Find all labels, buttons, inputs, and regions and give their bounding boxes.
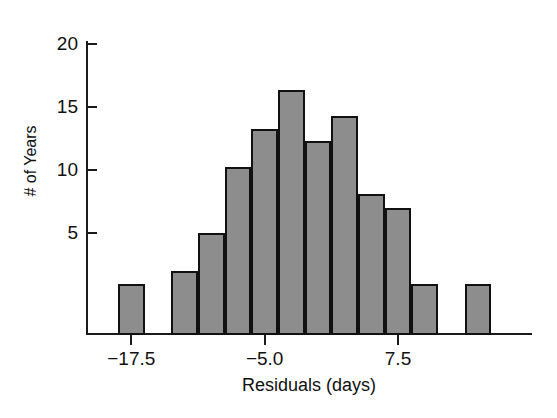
y-tick-label-5: 5 <box>0 222 78 244</box>
y-tick-10 <box>88 169 97 171</box>
x-tick-2 <box>397 335 399 345</box>
histogram-bar <box>171 271 198 335</box>
y-axis-title: # of Years <box>22 101 40 221</box>
histogram-figure: 5101520 −17.5−5.07.5 # of Years Residual… <box>0 0 557 418</box>
y-tick-label-20: 20 <box>0 33 78 55</box>
histogram-bar <box>411 284 438 335</box>
x-tick-1 <box>264 335 266 345</box>
histogram-bar <box>198 233 225 335</box>
histogram-bar <box>225 167 252 335</box>
histogram-bar <box>251 129 278 335</box>
x-axis-title: Residuals (days) <box>86 375 532 396</box>
histogram-bar <box>305 141 332 335</box>
x-tick-label-1: −5.0 <box>246 348 284 370</box>
histogram-bar <box>358 194 385 335</box>
x-tick-0 <box>130 335 132 345</box>
histogram-bar <box>385 208 412 335</box>
y-tick-15 <box>88 106 97 108</box>
y-tick-20 <box>88 43 97 45</box>
x-tick-label-2: 7.5 <box>385 348 411 370</box>
histogram-bar <box>331 116 358 335</box>
y-axis-line <box>86 41 88 335</box>
histogram-bar <box>465 284 492 335</box>
histogram-bar <box>118 284 145 335</box>
y-tick-5 <box>88 232 97 234</box>
histogram-bar <box>278 90 305 335</box>
x-tick-label-0: −17.5 <box>107 348 155 370</box>
